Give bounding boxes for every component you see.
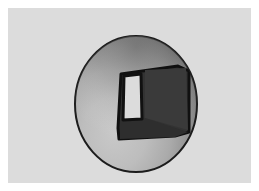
sphere-illustration: Shaded sphere with dark angular cavity G…: [8, 8, 251, 183]
cavity-left-light-panel: [123, 74, 142, 120]
image-canvas: Shaded sphere with dark angular cavity G…: [8, 8, 251, 183]
image-scene: Shaded sphere with dark angular cavity G…: [0, 0, 259, 191]
